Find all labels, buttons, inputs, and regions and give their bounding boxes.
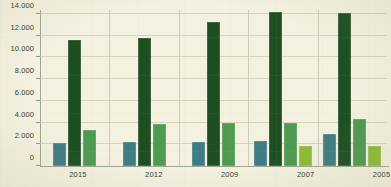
y-axis-tick-label: 2.000 <box>15 131 34 140</box>
y-axis-tick-label: 10.000 <box>10 44 34 53</box>
bar-group-2007[interactable] <box>248 14 317 166</box>
bar-2012-series-1[interactable] <box>123 142 136 166</box>
bar-2005-series-4[interactable] <box>368 146 381 166</box>
plot-area: 02.0004.0006.0008.00010.00012.00014.000 <box>40 14 387 166</box>
x-axis-line <box>40 166 389 167</box>
bar-group-2005[interactable] <box>318 14 387 166</box>
bar-2012-series-2[interactable] <box>138 38 151 166</box>
bar-group-2012[interactable] <box>109 14 178 166</box>
y-axis-tick-label: 8.000 <box>15 66 34 75</box>
bar-2007-series-2[interactable] <box>269 12 282 166</box>
x-axis-tick-label: 2012 <box>145 170 163 179</box>
bar-2005-series-3[interactable] <box>353 119 366 166</box>
x-axis-tick-label: 2015 <box>69 170 87 179</box>
bar-2005-series-1[interactable] <box>323 134 336 166</box>
bar-chart: 02.0004.0006.0008.00010.00012.00014.000 … <box>0 0 391 187</box>
bar-2007-series-3[interactable] <box>284 123 297 166</box>
x-axis-tick-label: 2009 <box>221 170 239 179</box>
y-axis-tick-label: 14.000 <box>10 1 34 10</box>
x-axis-tick-label: 2005 <box>373 170 391 179</box>
y-axis-tick-label: 4.000 <box>15 109 34 118</box>
x-axis-tick-label: 2007 <box>297 170 315 179</box>
bar-2012-series-3[interactable] <box>153 124 166 166</box>
bar-2007-series-4[interactable] <box>299 146 312 166</box>
bar-2015-series-2[interactable] <box>68 40 81 166</box>
bar-2005-series-2[interactable] <box>338 13 351 166</box>
bar-2009-series-2[interactable] <box>207 22 220 166</box>
y-axis-tick-label: 12.000 <box>10 22 34 31</box>
bar-2009-series-1[interactable] <box>192 142 205 166</box>
y-axis-tick-label: 6.000 <box>15 87 34 96</box>
bar-2007-series-1[interactable] <box>254 141 267 167</box>
bar-group-2015[interactable] <box>40 14 109 166</box>
bar-2015-series-1[interactable] <box>53 143 66 166</box>
y-axis-tick-label: 0 <box>30 153 34 162</box>
bar-2015-series-3[interactable] <box>83 130 96 166</box>
bar-2009-series-3[interactable] <box>222 123 235 166</box>
bar-group-2009[interactable] <box>179 14 248 166</box>
